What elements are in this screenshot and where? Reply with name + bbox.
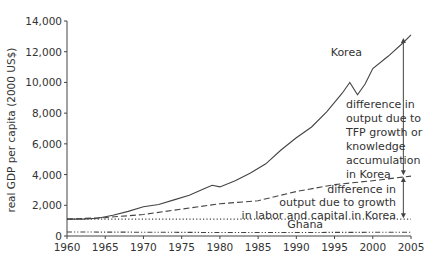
- factor-annotation-line: in labor and capital in Korea: [242, 209, 396, 222]
- x-tick-label: 1980: [207, 241, 234, 253]
- x-tick-label: 1990: [283, 241, 310, 253]
- factor-difference-arrow-head-down: [401, 213, 406, 218]
- tfp-annotation-line: difference in: [346, 98, 415, 111]
- y-tick-label: 10,000: [25, 76, 62, 88]
- gdp-per-capita-chart: 02,0004,0006,0008,00010,00012,00014,0001…: [0, 0, 442, 267]
- tfp-annotation-line: TFP growth or: [345, 126, 423, 139]
- x-tick-label: 1995: [321, 241, 348, 253]
- x-tick-label: 1965: [92, 241, 119, 253]
- x-tick-label: 1975: [168, 241, 195, 253]
- tfp-annotation-line: output due to: [346, 112, 421, 125]
- factor-annotation-line: output due to growth: [279, 196, 396, 209]
- x-tick-label: 2005: [398, 241, 425, 253]
- annotations: KoreaGhanadifference inoutput due toTFP …: [242, 38, 423, 231]
- y-tick-label: 12,000: [25, 46, 62, 58]
- y-tick-label: 8,000: [32, 107, 62, 119]
- y-tick-label: 2,000: [32, 199, 62, 211]
- tfp-annotation-line: in Korea: [346, 168, 391, 181]
- y-tick-label: 14,000: [25, 15, 62, 27]
- x-tick-label: 1970: [130, 241, 157, 253]
- x-tick-label: 1985: [245, 241, 272, 253]
- x-tick-label: 1960: [54, 241, 81, 253]
- tfp-annotation-line: knowledge: [346, 140, 406, 153]
- x-tick-label: 2000: [359, 241, 386, 253]
- korea-label: Korea: [331, 46, 362, 59]
- ghana-line: [67, 232, 411, 233]
- y-tick-label: 6,000: [32, 138, 62, 150]
- y-tick-label: 4,000: [32, 169, 62, 181]
- tfp-annotation-line: accumulation: [346, 154, 420, 167]
- tfp-difference-arrow-head-down: [401, 170, 406, 175]
- factor-annotation-line: difference in: [327, 183, 396, 196]
- y-axis-label: real GDP per capita (2000 US$): [5, 48, 17, 213]
